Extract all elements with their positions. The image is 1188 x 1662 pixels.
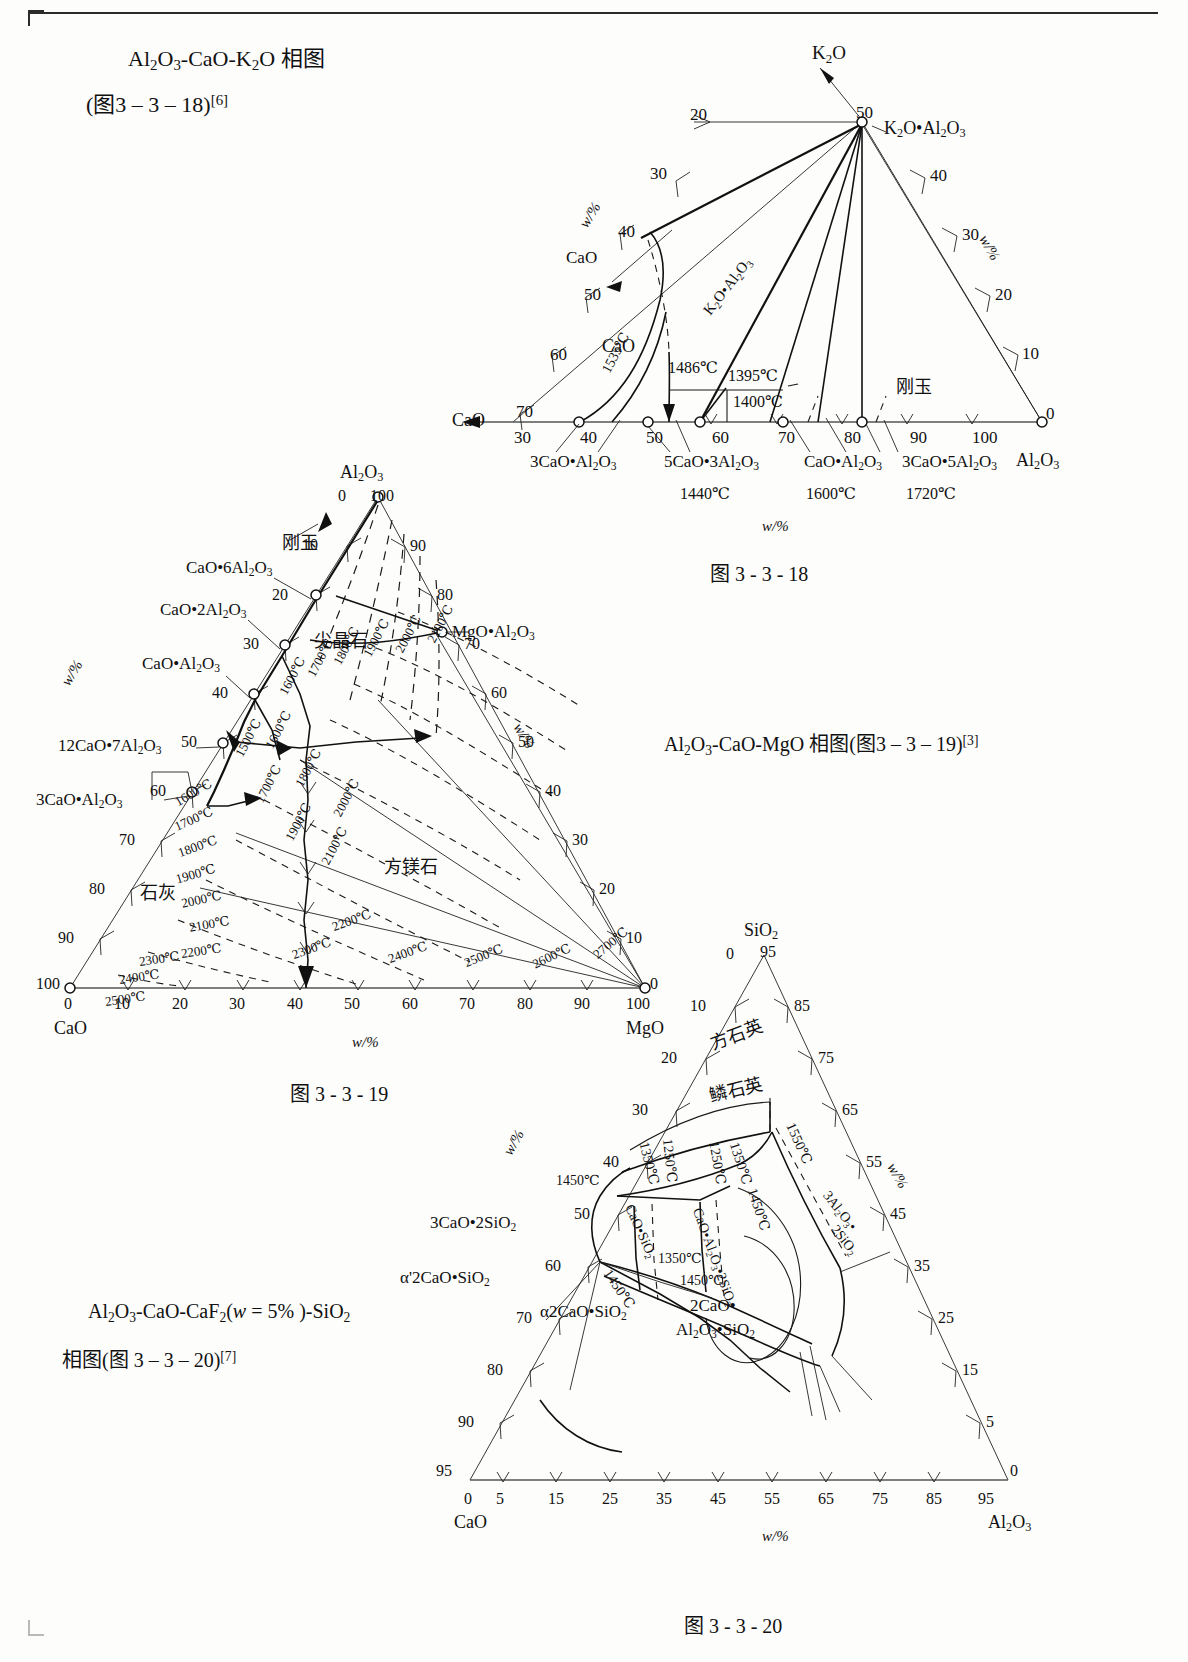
figure-3-3-20-graphic	[0, 0, 1188, 1662]
fig20-compound-2cao-al2o3-sio2-l2: Al2O3•SiO2	[676, 1320, 755, 1341]
caption-fig-3-3-20: 图 3 - 3 - 20	[684, 1610, 782, 1639]
fig20-bottom-tick-55: 55	[764, 1490, 780, 1508]
fig20-right-tick-85: 85	[794, 997, 810, 1015]
fig20-bottom-tick-95: 95	[978, 1490, 994, 1508]
fig20-right-tick-35: 35	[914, 1257, 930, 1275]
fig20-bottom-tick-75: 75	[872, 1490, 888, 1508]
fig20-right-tick-45: 45	[890, 1205, 906, 1223]
fig20-bottom-tick-25: 25	[602, 1490, 618, 1508]
fig20-right-tick-75: 75	[818, 1049, 834, 1067]
fig20-corner-al2o3: Al2O3	[988, 1512, 1031, 1535]
fig20-bottom-tick-35: 35	[656, 1490, 672, 1508]
fig20-bottom-axis-label: w/%	[762, 1528, 789, 1545]
fig20-left-tick-80: 80	[487, 1361, 503, 1379]
fig20-left-tick-10: 10	[690, 997, 706, 1015]
fig20-left-tick-40: 40	[603, 1153, 619, 1171]
fig20-left-tick-60: 60	[545, 1257, 561, 1275]
fig20-isotherm-1450a: 1450℃	[556, 1172, 600, 1189]
fig20-corner-cao: CaO	[454, 1512, 487, 1533]
fig20-bottom-tick-15: 15	[548, 1490, 564, 1508]
fig20-compound-2cao-al2o3-sio2-l1: 2CaO•	[690, 1296, 736, 1316]
fig20-apex-95: 95	[760, 943, 776, 961]
fig20-compound-3cao-2sio2: 3CaO•2SiO2	[430, 1213, 516, 1234]
fig20-left-tick-30: 30	[632, 1101, 648, 1119]
fig20-bottom-tick-45: 45	[710, 1490, 726, 1508]
fig20-right-ticks	[774, 999, 980, 1439]
fig20-right-tick-25: 25	[938, 1309, 954, 1327]
fig20-compound-alpha-prime-2cao-sio2: α'2CaO•SiO2	[400, 1268, 490, 1289]
fig20-bottom-tick-85: 85	[926, 1490, 942, 1508]
fig20-left-tick-20: 20	[661, 1049, 677, 1067]
fig20-bottom-tick-0: 0	[464, 1490, 472, 1508]
fig20-right-tick-0: 0	[1010, 1462, 1018, 1480]
fig20-right-tick-55: 55	[866, 1153, 882, 1171]
fig20-apex-0: 0	[726, 945, 734, 963]
fig20-corner-sio2: SiO2	[744, 920, 778, 943]
fig20-compound-alpha-2cao-sio2: α2CaO•SiO2	[540, 1302, 627, 1323]
fig20-right-tick-5: 5	[986, 1413, 994, 1431]
fig20-bottom-tick-65: 65	[818, 1490, 834, 1508]
fig20-left-tick-70: 70	[516, 1309, 532, 1327]
document-page: Al2O3-CaO-K2O 相图 (图3 – 3 – 18)[6]	[0, 0, 1188, 1662]
fig20-bottom-tick-5: 5	[496, 1490, 504, 1508]
fig20-right-tick-15: 15	[962, 1361, 978, 1379]
fig20-left-tick-95: 95	[436, 1462, 452, 1480]
fig20-isotherm-1350c: 1350℃	[658, 1250, 702, 1267]
fig20-left-tick-90: 90	[458, 1413, 474, 1431]
fig20-right-tick-65: 65	[842, 1101, 858, 1119]
fig20-left-tick-50: 50	[574, 1205, 590, 1223]
